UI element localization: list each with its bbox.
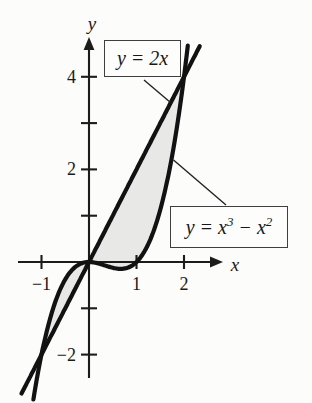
equation-box-cubic: y = x3 − x2 [170, 206, 288, 248]
x-tick-label: −1 [32, 274, 51, 294]
y-tick-label: 2 [67, 159, 76, 179]
equation-text-line: y = 2x [117, 47, 168, 70]
x-tick-label: 2 [180, 274, 189, 294]
x-tick-label: 1 [132, 274, 141, 294]
equation-text-cubic: y = x3 − x2 [186, 216, 273, 239]
leader-line-to-line-y2x [144, 80, 171, 103]
leader-line-to-cubic-curve [174, 160, 227, 205]
y-tick-label: −2 [57, 345, 76, 365]
equation-box-line: y = 2x [104, 40, 181, 77]
x-axis-letter: x [230, 254, 240, 275]
y-axis-letter: y [86, 13, 97, 34]
figure-area-between-curves: −112−224 x y y = 2x y = x3 − x2 [0, 0, 312, 403]
y-tick-label: 4 [67, 67, 76, 87]
x-axis-arrow [210, 257, 223, 268]
equation-cubic-sup2: 2 [266, 214, 273, 229]
equation-cubic-part2: − x [233, 216, 265, 238]
equation-cubic-part1: y = x [186, 216, 227, 238]
y-axis-arrow [84, 37, 95, 50]
